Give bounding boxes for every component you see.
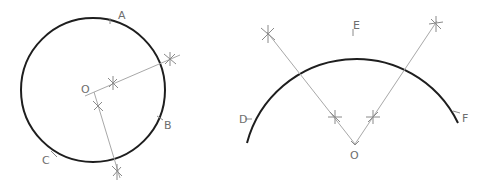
label-a: A [118,9,126,22]
label-d: D [239,113,247,126]
point-f-tick [453,111,460,113]
compass-mark-3 [93,101,103,111]
label-e: E [353,19,360,32]
label-o-right: O [350,149,359,162]
geometry-diagram: O A B C O E D F [0,0,484,187]
compass-mark-2 [164,52,176,66]
main-circle [21,18,165,162]
construction-line-lower [94,92,120,178]
point-o-tick [351,141,359,145]
compass-mark-1 [108,76,118,90]
label-c: C [42,154,50,167]
compass-mark-6 [328,110,342,124]
circle-figure: O A B C [21,9,180,180]
compass-mark-7 [366,110,380,124]
label-o-left: O [81,83,90,96]
main-arc [247,59,458,143]
label-f: F [462,112,468,125]
label-b: B [164,119,172,132]
arc-figure: O E D F [239,16,468,162]
compass-mark-4 [112,164,122,180]
